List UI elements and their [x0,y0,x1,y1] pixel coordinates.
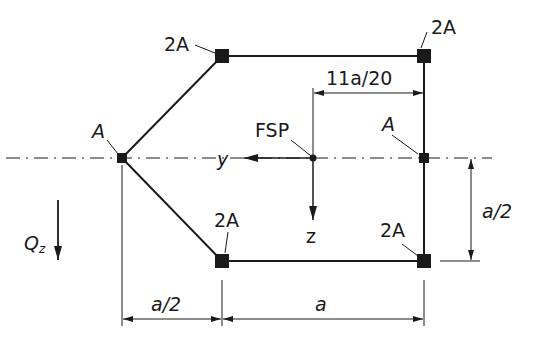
label-y-axis: y [216,148,229,170]
cross-section-diagram: 2A 2A A A 2A 2A FSP y z Qz 11a/20 a/2 a/… [0,0,542,341]
label-top-left-area: 2A [164,33,189,55]
label-dimension-bottom-left: a/2 [151,293,181,315]
dimension-height-half [440,159,480,261]
leader-lines [107,32,427,256]
stringer-top-right [417,49,431,63]
stringer-top-left [215,49,229,63]
label-centroid: FSP [255,119,289,141]
dimension-shear-center [313,88,423,158]
stringer-bottom-right [417,254,431,268]
label-dimension-bottom-width: a [315,293,327,315]
stringer-right-mid [419,153,429,163]
label-dimension-height-half: a/2 [482,200,512,222]
label-dimension-shear-center: 11a/20 [326,67,392,89]
label-z-axis: z [306,225,316,247]
label-shear-force: Qz [24,232,46,256]
label-right-mid-area: A [380,113,395,135]
label-bottom-left-area: 2A [214,209,239,231]
label-top-right-area: 2A [431,16,456,38]
stringer-left [117,153,127,163]
label-left-area: A [90,120,105,142]
stringer-bottom-left [215,254,229,268]
label-bottom-right-area: 2A [380,219,405,241]
